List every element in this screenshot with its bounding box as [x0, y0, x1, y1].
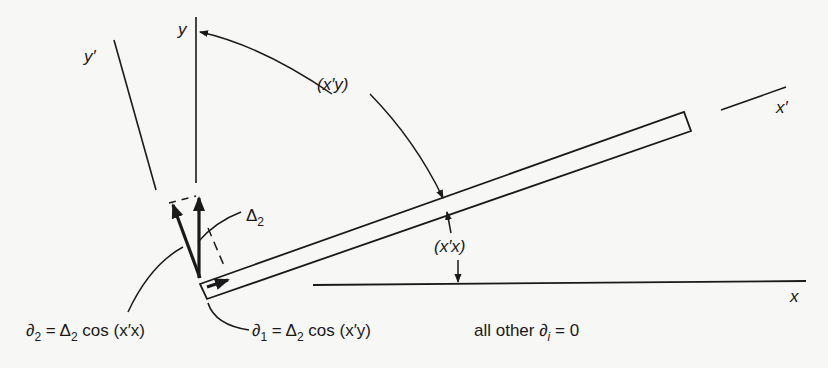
- delta2-label: Δ2: [246, 206, 264, 229]
- angle-arc-x-prime-y-lower: [370, 94, 443, 198]
- delta2-vector-y-prime: [173, 205, 200, 278]
- angle-label-x-prime-y: (x′y): [317, 75, 349, 94]
- equation-others-zero: all other ∂i = 0: [474, 321, 579, 344]
- equation-d2: ∂2 = Δ2 cos (x′x): [26, 321, 145, 344]
- eq1-leader: [208, 303, 249, 330]
- angle-label-x-prime-x: (x′x): [434, 237, 466, 256]
- y-axis-label: y: [177, 20, 188, 39]
- y-prime-axis: [114, 40, 156, 190]
- angle-arc-x-prime-y: [200, 32, 332, 94]
- projection-dash-side: [208, 228, 225, 268]
- beam-rotation-diagram: y y′ x x′ (x′y) (x′x) Δ2 ∂2 = Δ2 cos (x′…: [0, 0, 828, 368]
- projection-dash-top: [169, 196, 196, 203]
- delta2-leader: [198, 212, 241, 242]
- x-axis-label: x: [789, 287, 799, 306]
- x-axis: [313, 281, 806, 285]
- equation-d1: ∂1 = Δ2 cos (x′y): [252, 321, 371, 344]
- y-prime-axis-label: y′: [83, 47, 97, 66]
- x-prime-axis-label: x′: [775, 98, 789, 117]
- beam-element: [200, 112, 691, 299]
- eq2-leader: [128, 247, 183, 312]
